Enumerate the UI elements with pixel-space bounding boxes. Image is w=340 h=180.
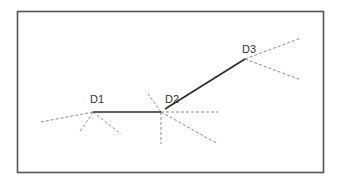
diagram-canvas: D1 D2 D3: [0, 0, 340, 180]
diagram-frame: [18, 12, 324, 173]
node-label-d2: D2: [165, 93, 179, 105]
node-label-d3: D3: [242, 43, 256, 55]
node-label-d1: D1: [90, 93, 104, 105]
